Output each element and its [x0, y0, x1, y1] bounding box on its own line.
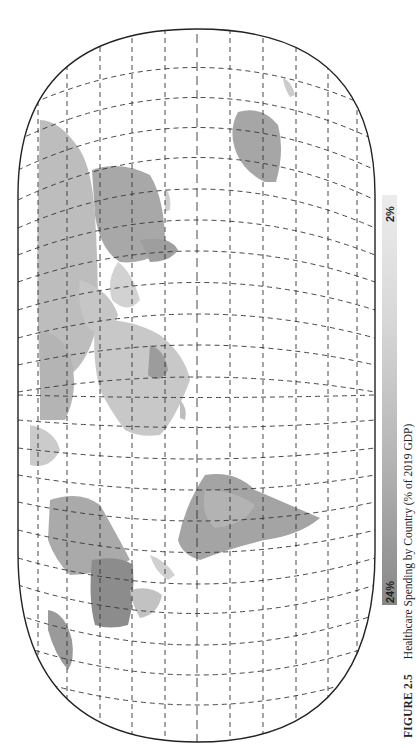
- madagascar-region: [180, 400, 186, 420]
- colorbar-max-label: 24%: [384, 563, 396, 603]
- colorbar-min-label: 2%: [384, 182, 396, 222]
- south-america-region: [178, 474, 320, 560]
- graticule-meridians: [38, 20, 357, 748]
- usa-region: [91, 558, 134, 627]
- alaska-region: [48, 610, 73, 670]
- world-map: [0, 0, 420, 748]
- figure-title: Healthcare Spending by Country (% of 201…: [402, 424, 414, 659]
- australia-region: [232, 110, 281, 182]
- islands-region: [283, 78, 295, 97]
- japan-region: [165, 188, 170, 212]
- africa-region: [94, 320, 190, 436]
- central-america-region: [150, 555, 175, 580]
- colorbar: [382, 195, 397, 605]
- greenland-region: [30, 425, 60, 466]
- india-region: [110, 262, 140, 308]
- figure-caption: FIGURE 2.5 Healthcare Spending by Countr…: [402, 424, 414, 738]
- land-masses: [30, 78, 320, 670]
- figure-number: FIGURE 2.5: [402, 674, 414, 738]
- mexico-region: [130, 588, 162, 618]
